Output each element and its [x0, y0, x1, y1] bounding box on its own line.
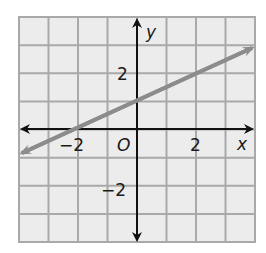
x-axis-label: x — [236, 134, 248, 154]
x-tick-label-2: 2 — [190, 135, 201, 155]
y-tick-label-neg2: −2 — [101, 180, 126, 200]
y-axis-label: y — [145, 22, 157, 42]
coordinate-plane: y x O −2 2 2 −2 — [0, 0, 266, 253]
y-tick-label-2: 2 — [117, 64, 128, 84]
origin-label: O — [117, 135, 130, 155]
x-tick-label-neg2: −2 — [59, 135, 84, 155]
